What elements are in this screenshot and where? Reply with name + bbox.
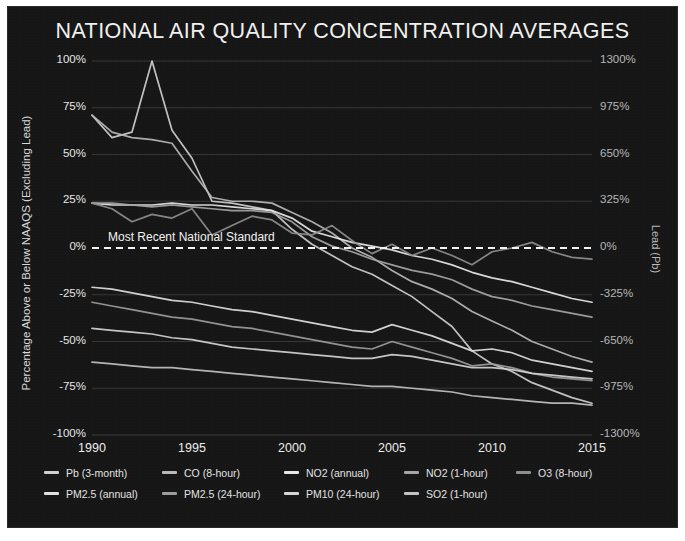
legend-item-label: PM10 (24-hour) (306, 488, 380, 500)
legend-item-label: NO2 (annual) (306, 467, 369, 479)
y-axis-left-tick: 25% (40, 193, 86, 205)
legend-item-label: PM2.5 (annual) (66, 488, 138, 500)
y-axis-left-tick: -100% (40, 427, 86, 439)
standard-line-label: Most Recent National Standard (108, 230, 275, 244)
chart-card: NATIONAL AIR QUALITY CONCENTRATION AVERA… (8, 7, 677, 527)
legend-item[interactable]: Pb (3-month) (44, 462, 162, 483)
x-axis-tick: 2005 (362, 441, 422, 455)
legend-color-swatch (284, 492, 299, 495)
y-axis-left-tick: -50% (40, 334, 86, 346)
legend-item-label: Pb (3-month) (66, 467, 127, 479)
y-axis-right-tick: -325% (600, 287, 656, 299)
x-axis-tick: 1990 (62, 441, 122, 455)
legend-color-swatch (44, 471, 59, 474)
legend-color-swatch (404, 471, 419, 474)
y-axis-right-tick: 975% (600, 100, 656, 112)
x-axis-tick: 2015 (562, 441, 622, 455)
series-line (92, 328, 592, 378)
y-axis-left-tick: -75% (40, 380, 86, 392)
y-axis-right-tick: 0% (600, 240, 656, 252)
legend-color-swatch (162, 492, 177, 495)
legend-color-swatch (404, 492, 419, 495)
y-axis-left-tick: 0% (40, 240, 86, 252)
legend-item[interactable]: CO (8-hour) (162, 462, 284, 483)
y-axis-left-tick: -25% (40, 287, 86, 299)
legend-item[interactable]: PM10 (24-hour) (284, 483, 404, 504)
y-axis-left-tick: 100% (40, 53, 86, 65)
legend-item-label: PM2.5 (24-hour) (184, 488, 260, 500)
legend-item[interactable]: PM2.5 (24-hour) (162, 483, 284, 504)
y-axis-right-tick: -1300% (600, 427, 656, 439)
series-line (92, 287, 592, 371)
legend-color-swatch (516, 471, 531, 474)
legend-item-label: O3 (8-hour) (538, 467, 592, 479)
chart-legend: Pb (3-month)CO (8-hour)NO2 (annual)NO2 (… (44, 462, 644, 504)
y-axis-left-tick: 50% (40, 147, 86, 159)
x-axis-tick: 2000 (262, 441, 322, 455)
legend-item[interactable]: PM2.5 (annual) (44, 483, 162, 504)
legend-color-swatch (44, 492, 59, 495)
legend-color-swatch (284, 471, 299, 474)
y-axis-right-tick: 1300% (600, 53, 656, 65)
legend-item[interactable]: NO2 (1-hour) (404, 462, 516, 483)
screenshot-frame: NATIONAL AIR QUALITY CONCENTRATION AVERA… (0, 0, 685, 541)
y-axis-right-tick: -650% (600, 334, 656, 346)
y-axis-right-tick: 650% (600, 147, 656, 159)
legend-item[interactable]: O3 (8-hour) (516, 462, 626, 483)
legend-item-label: NO2 (1-hour) (426, 467, 488, 479)
y-axis-right-tick: -975% (600, 380, 656, 392)
legend-item[interactable]: NO2 (annual) (284, 462, 404, 483)
legend-item-label: CO (8-hour) (184, 467, 240, 479)
y-axis-left-tick: 75% (40, 100, 86, 112)
legend-item[interactable]: SO2 (1-hour) (404, 483, 516, 504)
legend-color-swatch (162, 471, 177, 474)
x-axis-tick: 2010 (462, 441, 522, 455)
y-axis-right-tick: 325% (600, 193, 656, 205)
x-axis-tick: 1995 (162, 441, 222, 455)
legend-item-label: SO2 (1-hour) (426, 488, 487, 500)
